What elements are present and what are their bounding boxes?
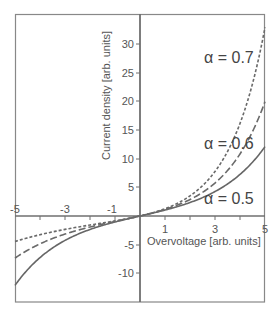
y-axis-title: Current density [arb. units] [100,31,112,160]
x-axis-title: Overvoltage [arb. units] [147,235,261,247]
y-tick-label: 30 [122,38,134,50]
y-tick-label: 15 [122,124,134,136]
y-tick-label: -5 [124,239,134,251]
y-tick-label: -10 [118,267,134,279]
y-tick-label: 10 [122,153,134,165]
x-tick-label: -5 [10,203,20,215]
x-tick-label: -3 [60,203,70,215]
x-tick-label: -1 [107,203,117,215]
label-alpha-0-7: α = 0.7 [204,49,254,66]
x-tick-label: 3 [212,223,218,235]
y-tick-label: 20 [122,95,134,107]
y-tick-label: 25 [122,67,134,79]
label-alpha-0-5: α = 0.5 [204,190,254,207]
x-tick-label: 5 [262,223,268,235]
x-tick-label: 1 [162,223,168,235]
label-alpha-0-6: α = 0.6 [204,135,254,152]
y-tick-label: 5 [128,181,134,193]
butler-volmer-chart: -5 -3 -1 1 3 5 30 25 20 15 10 5 -5 -10 O… [0,0,277,316]
